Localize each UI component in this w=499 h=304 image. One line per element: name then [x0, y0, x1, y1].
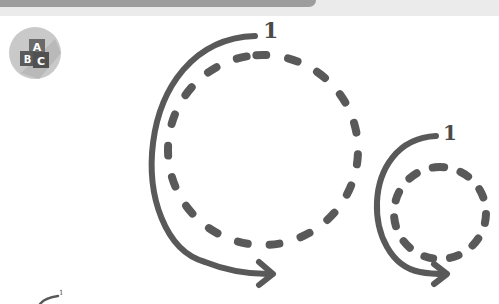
- example-step-label: 1: [59, 290, 63, 297]
- large-step-label: 1: [263, 19, 278, 41]
- small-dashed-circle: [389, 162, 490, 263]
- tracing-canvas: [0, 0, 499, 304]
- large-dashed-circle: [162, 49, 365, 252]
- small-step-label: 1: [443, 123, 457, 143]
- example-arc-icon: [40, 296, 58, 304]
- small-trace-arrow-icon: [377, 136, 447, 284]
